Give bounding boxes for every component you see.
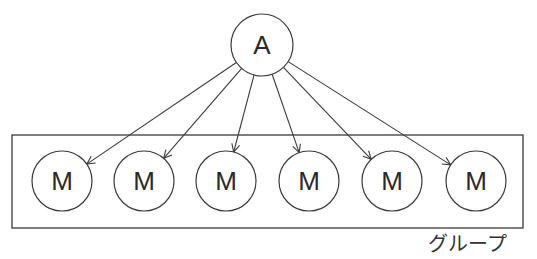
edge-arrow-a-to-m-3 <box>234 75 254 152</box>
edge-arrow-a-to-m-2 <box>164 68 242 158</box>
edges <box>87 62 451 165</box>
root-node-label: A <box>253 30 271 60</box>
root-node-a: A <box>231 14 293 76</box>
member-node-m-2: M <box>114 151 174 211</box>
member-nodes: MMMMMM <box>32 151 506 211</box>
edge-arrow-a-to-m-6 <box>288 62 451 165</box>
member-node-m-3: M <box>196 151 256 211</box>
edge-arrow-a-to-m-4 <box>272 74 299 152</box>
member-node-m-5: M <box>362 151 422 211</box>
member-node-label: M <box>465 166 487 196</box>
member-node-m-4: M <box>279 151 339 211</box>
member-node-label: M <box>381 166 403 196</box>
member-node-label: M <box>133 166 155 196</box>
diagram-canvas: A MMMMMM グループ <box>0 0 537 259</box>
edge-arrow-a-to-m-1 <box>87 62 237 164</box>
group-label: グループ <box>428 232 507 256</box>
member-node-label: M <box>298 166 320 196</box>
member-node-label: M <box>215 166 237 196</box>
member-node-m-1: M <box>32 151 92 211</box>
member-node-label: M <box>51 166 73 196</box>
member-node-m-6: M <box>446 151 506 211</box>
